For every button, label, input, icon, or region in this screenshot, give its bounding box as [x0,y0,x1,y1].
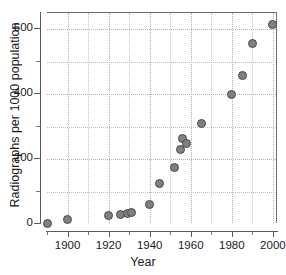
x-axis-tick [109,231,110,237]
y-axis-tick-label: 0 [27,217,33,229]
gridline-horizontal [47,29,276,30]
x-axis-minor-tick [129,231,130,235]
data-point [197,119,206,128]
y-axis-tick [34,28,40,29]
y-axis-tick [34,158,40,159]
y-axis-minor-tick [36,191,40,192]
y-axis-tick-label: 600 [14,22,33,34]
y-axis-tick-label: 400 [14,87,33,99]
data-point [227,90,236,99]
gridline-horizontal [47,62,276,63]
x-axis-tick-label: 1980 [219,240,245,252]
y-axis-minor-tick [36,61,40,62]
data-point [170,163,179,172]
scatter-chart-figure: Radiographs per 1000 population Year 020… [0,0,286,275]
x-axis-tick [150,231,151,237]
x-axis-tick [232,231,233,237]
data-point [268,20,277,29]
plot-area [47,12,277,223]
y-axis-tick [34,93,40,94]
x-axis-tick-label: 1900 [55,240,81,252]
x-axis-tick-label: 1940 [137,240,163,252]
data-point [127,208,136,217]
x-axis-tick [273,231,274,237]
data-point [155,179,164,188]
x-axis-tick [68,231,69,237]
data-point [248,39,257,48]
y-axis-line [40,12,41,224]
x-axis-minor-tick [170,231,171,235]
x-axis-tick-label: 2000 [260,240,286,252]
data-point [238,71,247,80]
gridline-horizontal [47,94,276,95]
x-axis-tick-label: 1920 [96,240,122,252]
x-axis-title: Year [0,255,286,269]
y-axis-tick-label: 200 [14,152,33,164]
data-point [63,215,72,224]
gridline-horizontal [47,127,276,128]
data-point [145,200,154,209]
y-axis-title: Radiographs per 1000 population [8,15,22,215]
gridline-horizontal [47,159,276,160]
x-axis-tick [191,231,192,237]
x-axis-tick-label: 1960 [178,240,204,252]
x-axis-minor-tick [252,231,253,235]
x-axis-line [46,231,278,232]
data-point [104,211,113,220]
gridline-horizontal [47,192,276,193]
x-axis-minor-tick [47,231,48,235]
x-axis-minor-tick [88,231,89,235]
data-point [43,219,52,228]
y-axis-minor-tick [36,126,40,127]
x-axis-minor-tick [211,231,212,235]
y-axis-tick [34,223,40,224]
